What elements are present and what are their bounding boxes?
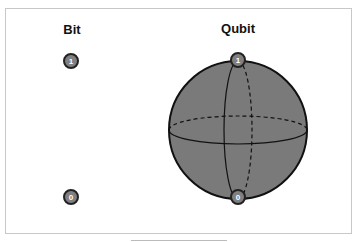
diagram-graphic: 1 0 1 0 — [0, 0, 359, 242]
bit-label-1: 1 — [69, 57, 74, 66]
divider-line — [131, 240, 227, 241]
qubit-label-0: 0 — [236, 193, 241, 202]
bit-label-0: 0 — [69, 193, 74, 202]
bloch-sphere — [169, 61, 307, 199]
qubit-label-1: 1 — [236, 56, 241, 65]
